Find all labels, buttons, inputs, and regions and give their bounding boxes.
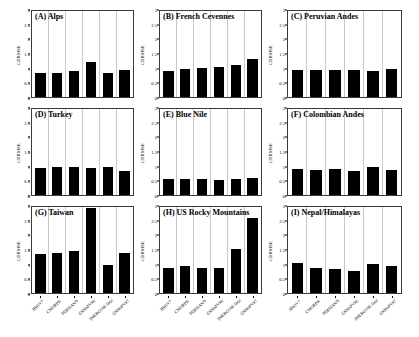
panel-h: (H) US Rocky Mountains00.511.522.53CDRMS… bbox=[143, 202, 271, 300]
bar-series bbox=[288, 109, 401, 195]
x-tick-mark bbox=[168, 296, 169, 298]
y-tick-mark bbox=[28, 220, 30, 221]
bar bbox=[69, 167, 79, 195]
x-tick-mark bbox=[40, 296, 41, 298]
x-label-cell: IMERGV06 final bbox=[100, 298, 117, 308]
panel-title: (A) Alps bbox=[35, 12, 63, 21]
y-tick-mark bbox=[285, 68, 287, 69]
panel-inner: (E) Blue Nile00.511.522.53CDRMSE bbox=[143, 104, 271, 202]
bar bbox=[86, 208, 96, 293]
bar-cell bbox=[244, 11, 261, 97]
panel-inner: (B) French Cevennes00.511.522.53CDRMSE bbox=[143, 6, 271, 104]
x-tick-label: 3B42V7 bbox=[287, 299, 301, 312]
panel-inner: (G) Taiwan00.511.522.53CDRMSE3B42V7CMORP… bbox=[9, 202, 143, 300]
bar bbox=[247, 59, 257, 97]
y-tick-mark bbox=[285, 250, 287, 251]
y-tick-mark bbox=[285, 137, 287, 138]
bar-cell bbox=[344, 207, 363, 293]
bar-cell bbox=[227, 11, 244, 97]
y-tick-mark bbox=[157, 250, 159, 251]
y-tick-mark bbox=[157, 235, 159, 236]
x-label-cell: GSMaPV06 bbox=[83, 298, 100, 308]
y-tick-mark bbox=[157, 166, 159, 167]
bar-series bbox=[288, 11, 401, 97]
bar-cell bbox=[66, 207, 83, 293]
bar bbox=[69, 251, 79, 293]
bar-cell bbox=[99, 11, 116, 97]
y-tick-mark bbox=[157, 206, 159, 207]
bar-cell bbox=[116, 207, 133, 293]
y-tick-mark bbox=[285, 279, 287, 280]
bar bbox=[52, 73, 62, 97]
y-tick-mark bbox=[285, 83, 287, 84]
y-axis-label: CDRMSE bbox=[16, 45, 21, 65]
y-tick-mark bbox=[157, 196, 159, 197]
y-tick-mark bbox=[28, 235, 30, 236]
y-tick-mark bbox=[157, 68, 159, 69]
y-tick-mark bbox=[157, 10, 159, 11]
x-label-cell: IMERGV06 final bbox=[364, 298, 383, 308]
bar-series bbox=[288, 207, 401, 293]
bar bbox=[231, 249, 241, 293]
bar-cell bbox=[177, 109, 194, 195]
x-axis-labels: 3B42V7CMORPHPERSIANNGSMaPV06IMERGV06 fin… bbox=[31, 298, 134, 332]
bar-cell bbox=[194, 207, 211, 293]
y-tick-mark bbox=[28, 122, 30, 123]
y-tick-mark bbox=[28, 98, 30, 99]
bar-series bbox=[32, 207, 133, 293]
y-axis-label: CDRMSE bbox=[16, 143, 21, 163]
x-label-cell: PERSIANN bbox=[193, 298, 210, 308]
panel-b: (B) French Cevennes00.511.522.53CDRMSE bbox=[143, 6, 271, 104]
y-tick-mark bbox=[28, 166, 30, 167]
bar bbox=[367, 167, 379, 195]
x-tick-mark bbox=[297, 296, 298, 298]
panel-title: (C) Peruvian Andes bbox=[291, 12, 358, 21]
plot-area bbox=[159, 206, 262, 294]
bar bbox=[52, 167, 62, 195]
y-tick-mark bbox=[28, 152, 30, 153]
bar bbox=[247, 218, 257, 293]
y-tick-mark bbox=[285, 294, 287, 295]
y-tick-mark bbox=[157, 98, 159, 99]
panel-a: (A) Alps00.511.522.53CDRMSE bbox=[9, 6, 143, 104]
y-axis-label: CDRMSE bbox=[140, 241, 145, 261]
x-tick-label: 3B42V7 bbox=[30, 299, 44, 312]
y-tick-mark bbox=[285, 235, 287, 236]
bar-cell bbox=[307, 207, 326, 293]
y-tick-mark bbox=[285, 152, 287, 153]
bar-cell bbox=[210, 11, 227, 97]
bar bbox=[310, 170, 322, 195]
panel-title: (I) Nepal/Himalayas bbox=[291, 208, 360, 217]
panel-c: (C) Peruvian Andes00.511.522.53CDRMSE bbox=[271, 6, 411, 104]
bar bbox=[197, 68, 207, 97]
bar-cell bbox=[244, 109, 261, 195]
y-tick-mark bbox=[28, 279, 30, 280]
y-tick-mark bbox=[285, 181, 287, 182]
bar-cell bbox=[382, 207, 401, 293]
bar bbox=[247, 178, 257, 195]
bar bbox=[386, 266, 398, 293]
bar-cell bbox=[210, 109, 227, 195]
x-label-cell: GSMaPV06 bbox=[345, 298, 364, 308]
panel-title: (E) Blue Nile bbox=[163, 110, 207, 119]
bar bbox=[180, 69, 190, 97]
y-tick-mark bbox=[157, 152, 159, 153]
bar-cell bbox=[66, 11, 83, 97]
y-tick-mark bbox=[157, 279, 159, 280]
panel-e: (E) Blue Nile00.511.522.53CDRMSE bbox=[143, 104, 271, 202]
bar bbox=[348, 171, 360, 195]
bar bbox=[292, 70, 304, 97]
panel-g: (G) Taiwan00.511.522.53CDRMSE3B42V7CMORP… bbox=[9, 202, 143, 300]
panel-title: (D) Turkey bbox=[35, 110, 73, 119]
bar-cell bbox=[210, 207, 227, 293]
bar-cell bbox=[307, 11, 326, 97]
bar bbox=[86, 168, 96, 195]
bar-cell bbox=[160, 109, 177, 195]
bar-cell bbox=[82, 109, 99, 195]
y-tick-mark bbox=[28, 39, 30, 40]
bar-cell bbox=[326, 109, 345, 195]
bar-cell bbox=[344, 11, 363, 97]
x-label-cell: GSMaPV07 bbox=[117, 298, 134, 308]
bar-cell bbox=[82, 11, 99, 97]
y-tick-mark bbox=[285, 196, 287, 197]
